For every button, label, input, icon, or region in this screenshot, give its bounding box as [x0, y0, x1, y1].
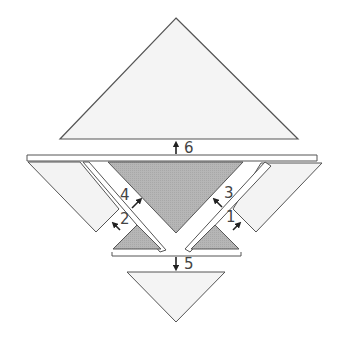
label-3: 3 — [224, 184, 234, 202]
top-triangle — [60, 18, 298, 139]
label-4: 4 — [120, 186, 130, 204]
tangram-diagram: 6 5 4 3 2 1 — [0, 0, 345, 348]
left-parallelogram — [28, 162, 119, 232]
top-bar — [27, 155, 317, 161]
arrow-3-icon — [215, 200, 222, 207]
label-6: 6 — [184, 139, 194, 157]
label-2: 2 — [120, 210, 130, 228]
arrow-4-icon — [132, 200, 140, 208]
bottom-bar — [112, 252, 241, 256]
label-5: 5 — [184, 255, 194, 273]
right-parallelogram — [233, 163, 322, 232]
label-1: 1 — [226, 208, 236, 226]
bottom-triangle — [127, 272, 225, 322]
